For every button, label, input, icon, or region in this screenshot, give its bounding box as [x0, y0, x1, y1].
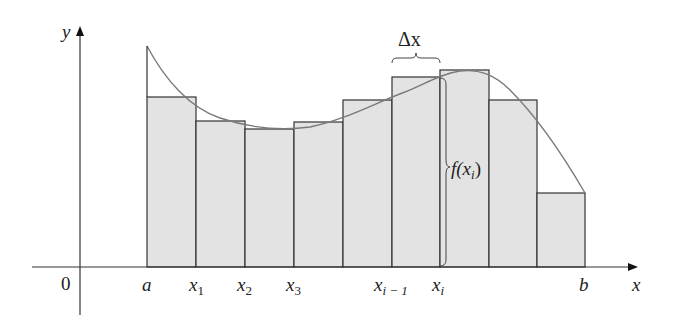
- tick-label-x-i-minus-1: xi − 1: [373, 274, 408, 298]
- rectangle-1: [147, 97, 196, 267]
- diagram-canvas: y x 0 a x1 x2 x3 xi − 1 xi b Δx f(xi): [0, 0, 680, 325]
- tick-label-x1: x1: [188, 274, 204, 298]
- delta-x-label: Δx: [398, 28, 421, 50]
- y-axis-label: y: [60, 21, 71, 42]
- rectangle-9: [537, 193, 585, 267]
- origin-label: 0: [61, 273, 71, 294]
- y-axis-arrow-icon: [76, 26, 84, 36]
- delta-x-brace: [392, 53, 440, 63]
- x-axis-arrow-icon: [628, 263, 638, 271]
- tick-label-b: b: [579, 274, 589, 295]
- tick-label-x2: x2: [236, 274, 252, 298]
- rectangle-8: [489, 100, 537, 267]
- tick-label-x3: x3: [285, 274, 301, 298]
- rectangle-3: [245, 129, 294, 267]
- rectangle-4: [294, 122, 343, 267]
- rectangle-5: [343, 100, 392, 267]
- rectangle-2: [196, 121, 245, 267]
- tick-label-a: a: [142, 274, 152, 295]
- f-xi-label: f(xi): [451, 158, 481, 182]
- riemann-sum-diagram: y x 0 a x1 x2 x3 xi − 1 xi b Δx f(xi): [0, 0, 680, 325]
- x-axis-label: x: [631, 274, 641, 295]
- tick-label-x-i: xi: [431, 274, 444, 298]
- rectangle-6: [392, 77, 440, 267]
